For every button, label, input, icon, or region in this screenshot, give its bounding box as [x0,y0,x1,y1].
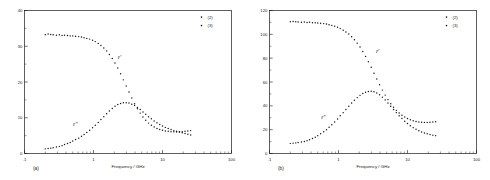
data-point [315,136,316,137]
data-point [359,46,360,47]
data-point [100,45,101,46]
legend-b: (2)(3) [446,15,459,29]
data-point [117,67,118,68]
data-point [410,125,411,126]
data-point [45,148,46,149]
data-point [47,33,48,34]
curve-annotation: ε' [376,48,380,54]
data-point [131,97,132,98]
data-point [390,105,391,106]
x-tick-label: 100 [473,157,481,162]
data-point [373,91,374,92]
data-point [301,141,302,142]
legend-marker-icon [201,25,203,27]
data-point [151,125,152,126]
data-point [70,142,71,143]
y-tick-label: 30 [18,44,23,49]
data-point [145,113,146,114]
y-tick-label: 0 [265,151,268,156]
data-point [190,130,191,131]
data-point [156,128,157,129]
data-point [120,73,121,74]
data-point [351,36,352,37]
data-point [421,131,422,132]
y-tick-label: 20 [263,127,268,132]
data-point [153,126,154,127]
data-point [97,43,98,44]
y-tick-label: 10 [18,115,23,120]
data-point [179,131,180,132]
data-point [170,131,171,132]
data-point [304,141,305,142]
data-point [297,21,298,22]
y-tick-label: 0 [20,151,23,156]
data-point [368,91,369,92]
chart-panel-b: 020406080100120 .1110100 ε'ε" (2)(3) Fre… [245,0,490,180]
data-point [331,124,332,125]
data-point [52,147,53,148]
data-point [421,122,422,123]
data-point [429,134,430,135]
data-point [337,118,338,119]
data-point [165,127,166,128]
data-point [354,100,355,101]
data-point [396,112,397,113]
plot-svg-b: 020406080100120 .1110100 ε'ε" (2)(3) Fre… [245,0,490,180]
x-axis-title: Frequency / GHz [111,164,144,169]
axes-frame-b [270,11,477,154]
data-point [393,107,394,108]
data-point [301,21,302,22]
data-point [190,134,191,135]
x-tick-label: 10 [405,157,410,162]
data-point [345,109,346,110]
data-point [382,89,383,90]
data-point [112,108,113,109]
data-point [342,112,343,113]
data-point [371,67,372,68]
y-tick-marks-a [25,11,28,154]
plot-svg-a: 010203040 .1110100 ε'ε" (2)(3) Frequency… [0,0,245,180]
data-point [45,34,46,35]
y-tick-label: 20 [18,80,23,85]
data-point [64,144,65,145]
data-point [359,95,360,96]
legend-a: (2)(3) [201,15,214,29]
y-tick-label: 60 [263,80,268,85]
data-point [435,121,436,122]
data-point [92,39,93,40]
x-tick-marks-b [270,150,477,153]
data-point [67,35,68,36]
curve-annotation: ε" [321,114,326,120]
data-point [86,38,87,39]
data-point [368,61,369,62]
data-point [83,37,84,38]
curve-annotations-a: ε'ε" [73,54,122,128]
data-point [52,34,53,35]
data-point [328,24,329,25]
data-point [410,119,411,120]
data-point [432,134,433,135]
data-point [382,96,383,97]
axes-frame-a [25,11,232,154]
legend-label: (2) [208,15,214,20]
data-point [326,129,327,130]
data-point [67,143,68,144]
data-point [376,92,377,93]
data-point [131,103,132,104]
data-point [165,130,166,131]
data-point [148,122,149,123]
figure-root: 010203040 .1110100 ε'ε" (2)(3) Frequency… [0,0,490,180]
data-point [426,133,427,134]
y-tick-marks-b [270,11,273,154]
data-point [306,140,307,141]
data-point [120,103,121,104]
data-point [426,122,427,123]
data-point [151,118,152,119]
data-point [351,102,352,103]
data-point [354,39,355,40]
data-point [184,131,185,132]
data-point [167,128,168,129]
x-tick-label: 1 [92,157,95,162]
data-point [95,41,96,42]
data-point [86,132,87,133]
